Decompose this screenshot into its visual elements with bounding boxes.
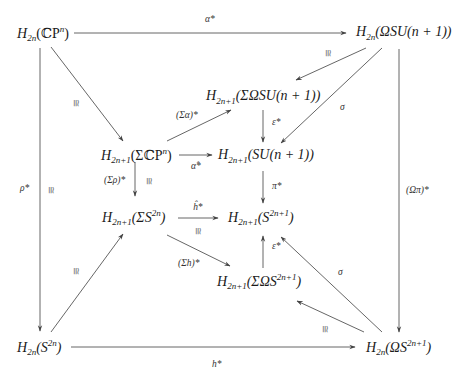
label-epsilon-star-bottom: ε* (272, 242, 281, 252)
label-pi-star: π* (272, 182, 282, 192)
arrow-tl-sigma-cp (51, 47, 123, 141)
node-h2n-omega-su: H2n(ΩSU(n + 1)) (356, 25, 451, 42)
label-iso-h-hat: ≅ (193, 227, 203, 235)
label-sigma-bottom: σ (338, 268, 343, 278)
label-sigma-alpha-star: (Σα)* (176, 111, 198, 121)
label-sigma-h-star: (Σh)* (178, 259, 199, 269)
arrows-layer (0, 0, 458, 381)
label-sigma-rho-star: (Σρ)* (104, 176, 125, 186)
label-alpha-hat-star: α̂* (191, 162, 201, 172)
label-h-star: h* (212, 360, 222, 370)
label-sigma-top: σ (340, 103, 345, 113)
label-epsilon-star-top: ε* (272, 118, 281, 128)
node-h2n1-sigma-omega-su: H2n+1(ΣΩSU(n + 1)) (206, 89, 320, 106)
node-h2n1-sigma-omega-s2n1: H2n+1(ΣΩS2n+1) (217, 273, 301, 291)
node-h2n-omega-s2n1: H2n(ΩS2n+1) (366, 339, 431, 357)
node-h2n1-su: H2n+1(SU(n + 1)) (218, 148, 314, 165)
label-omega-pi-star: (Ωπ)* (406, 186, 429, 196)
arrow-bl-sigma-s2n (51, 234, 123, 332)
label-h-hat-star: ĥ* (193, 203, 203, 213)
label-iso-br-diagonal: ≅ (320, 325, 330, 333)
label-iso-sigma-rho: ≅ (144, 177, 154, 185)
label-rho-star: ρ* (20, 184, 29, 194)
label-iso-tl-diagonal: ≅ (71, 99, 81, 107)
commutative-diagram: H2n(ℂPn) H2n(ΩSU(n + 1)) H2n+1(ΣΩSU(n + … (0, 0, 458, 381)
label-iso-tr-diagonal: ≅ (323, 49, 333, 57)
label-alpha-star: α* (205, 15, 215, 25)
label-iso-left-vertical: ≅ (46, 186, 56, 194)
node-h2n-s2n: H2n(S2n) (17, 339, 61, 357)
node-h2n1-sigma-s2n: H2n+1(ΣS2n) (102, 209, 165, 227)
label-iso-bl-diagonal: ≅ (71, 267, 81, 275)
node-h2n1-s2n1: H2n+1(S2n+1) (228, 209, 294, 227)
node-h2n-cpn: H2n(ℂPn) (17, 25, 69, 43)
node-h2n1-sigma-cpn: H2n+1(ΣℂPn) (101, 147, 172, 165)
